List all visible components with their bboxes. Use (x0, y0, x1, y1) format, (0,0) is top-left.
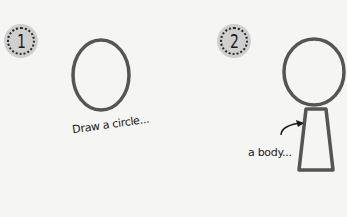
stick-figure-drawing-2 (0, 0, 347, 217)
step-2-caption: a body... (248, 146, 292, 159)
